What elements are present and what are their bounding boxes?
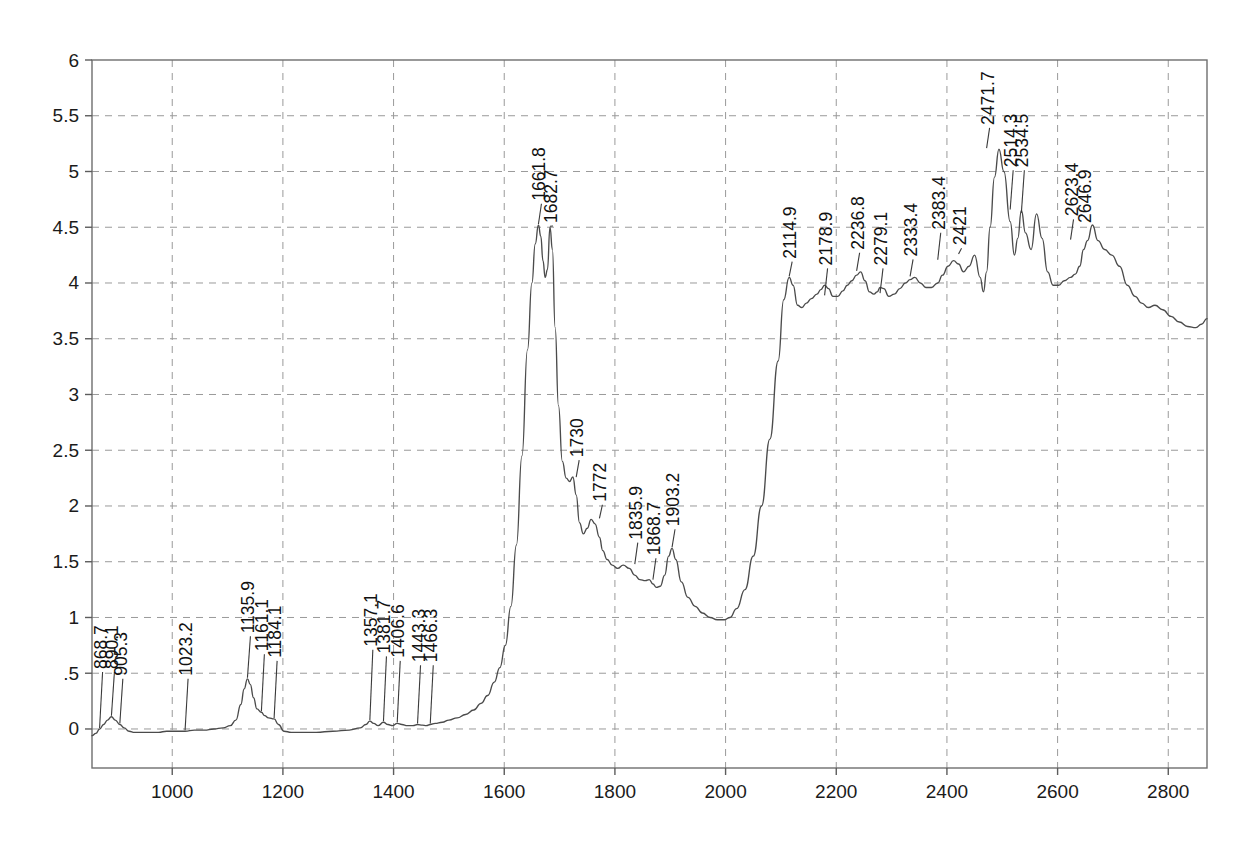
peak-label: 2333.4 (901, 203, 921, 257)
peak-label: 1903.2 (663, 473, 683, 527)
peak-leader-line (418, 665, 421, 723)
y-tick-label: 6 (68, 50, 79, 71)
y-tick-label: 4.5 (53, 217, 79, 238)
peak-label: 2178.9 (816, 212, 836, 266)
x-tick-label: 1400 (372, 781, 414, 802)
y-tick-label: 1.5 (53, 551, 79, 572)
peak-leader-line (857, 253, 860, 271)
peak-leader-line (1010, 170, 1013, 209)
peak-label: 1184.1 (265, 606, 285, 658)
peak-label: 2383.4 (929, 176, 949, 230)
x-tick-label: 2600 (1036, 781, 1078, 802)
y-tick-label: 5.5 (53, 105, 79, 126)
peak-leader-line (910, 259, 913, 276)
y-tick-label: 3 (68, 384, 79, 405)
peak-leader-line (100, 672, 103, 728)
x-tick-label: 2000 (704, 781, 746, 802)
peak-leader-line (938, 233, 941, 260)
peak-label: 1682.7 (541, 169, 561, 223)
peak-leader-line (959, 248, 962, 254)
y-tick-label: 1 (68, 607, 79, 628)
peak-leader-line (397, 661, 400, 723)
peak-label: 2236.8 (848, 196, 868, 250)
peak-leader-line (261, 654, 264, 711)
peak-leader-line (383, 656, 386, 721)
peak-label: 2646.9 (1075, 169, 1095, 223)
x-tick-label: 2400 (926, 781, 968, 802)
peak-leader-line (274, 661, 277, 718)
plot-frame (92, 60, 1207, 768)
y-tick-label: .5 (63, 663, 79, 684)
peak-leader-line (370, 650, 373, 720)
peak-label: 2279.1 (871, 212, 891, 266)
y-tick-label: 4 (68, 272, 79, 293)
peak-leader-line (672, 529, 675, 547)
peak-label: 2114.9 (780, 206, 800, 258)
y-tick-label: 2.5 (53, 440, 79, 461)
peak-leader-line (825, 268, 828, 295)
peak-leader-line (120, 679, 123, 724)
peak-leader-line (880, 268, 883, 293)
peak-label: 2534.5 (1012, 114, 1032, 168)
y-tick-label: 0 (68, 718, 79, 739)
peak-leader-line (576, 460, 579, 477)
peak-label: 2421 (950, 206, 970, 245)
peak-leader-line (185, 679, 188, 731)
peak-leader-line (1021, 170, 1024, 213)
peak-labels: 868.7890.1905.31023.21135.91161.11184.11… (91, 71, 1095, 730)
spectrum-svg: 0.511.522.533.544.555.561000120014001600… (0, 0, 1259, 854)
peak-label: 1835.9 (626, 486, 646, 540)
peak-leader-line (247, 636, 250, 677)
peak-label: 1023.2 (176, 622, 196, 676)
y-tick-label: 3.5 (53, 328, 79, 349)
x-tick-label: 2800 (1147, 781, 1189, 802)
x-tick-label: 1800 (594, 781, 636, 802)
peak-leader-line (1071, 219, 1074, 239)
y-tick-label: 5 (68, 161, 79, 182)
ir-spectrum-chart: 0.511.522.533.544.555.561000120014001600… (0, 0, 1259, 854)
peak-label: 2471.7 (978, 71, 998, 125)
y-axis: 0.511.522.533.544.555.56 (53, 50, 92, 740)
peak-label: 1772 (590, 463, 610, 502)
y-tick-label: 2 (68, 495, 79, 516)
gridlines (92, 60, 1207, 768)
peak-leader-line (111, 672, 114, 716)
x-tick-label: 2200 (815, 781, 857, 802)
peak-leader-line (635, 543, 638, 564)
peak-label: 1466.3 (421, 609, 441, 663)
peak-label: 905.3 (111, 632, 131, 676)
x-tick-label: 1600 (483, 781, 525, 802)
peak-label: 1730 (567, 418, 587, 457)
peak-leader-line (599, 505, 602, 519)
peak-label: 1868.7 (644, 502, 664, 556)
peak-label: 1406.6 (388, 604, 408, 658)
peak-leader-line (987, 128, 990, 148)
peak-leader-line (430, 665, 433, 723)
peak-leader-line (789, 262, 792, 277)
x-tick-label: 1000 (151, 781, 193, 802)
x-axis: 1000120014001600180020002200240026002800 (151, 768, 1189, 802)
x-tick-label: 1200 (262, 781, 304, 802)
